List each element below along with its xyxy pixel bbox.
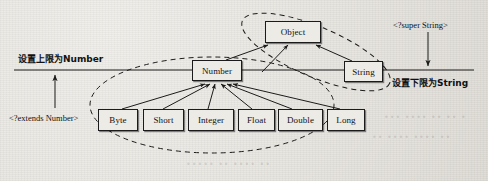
class-node-label: Float <box>247 115 266 125</box>
paper-bleed-text: •• •••• •••• •• <box>372 133 451 142</box>
edge-integer-number <box>208 84 215 109</box>
class-node-label: Integer <box>198 115 224 125</box>
edge-byte-number <box>122 84 205 109</box>
edge-string-object <box>316 45 352 61</box>
class-node-byte[interactable]: Byte <box>98 109 138 131</box>
class-node-label: Number <box>202 66 232 76</box>
diagram-canvas: Object Number String Byte Short Integer … <box>0 0 488 181</box>
extends-wildcard-label: <?extends Number> <box>9 113 78 123</box>
edge-wildcard-object <box>262 45 288 72</box>
class-node-label: Byte <box>109 115 126 125</box>
class-node-float[interactable]: Float <box>238 109 275 131</box>
class-node-label: String <box>352 67 375 77</box>
class-node-long[interactable]: Long <box>327 109 365 131</box>
class-node-object[interactable]: Object <box>265 21 321 43</box>
class-node-label: Long <box>336 115 355 125</box>
class-node-label: Short <box>153 115 173 125</box>
lower-bound-note: 设置下限为String <box>392 76 468 89</box>
paper-bleed-text: ••• •••• •• •• • <box>384 113 467 122</box>
edge-short-number <box>163 84 210 109</box>
class-node-double[interactable]: Double <box>278 109 323 131</box>
class-node-integer[interactable]: Integer <box>188 109 234 131</box>
class-node-label: Double <box>287 115 314 125</box>
edge-number-object <box>226 45 268 60</box>
super-wildcard-label: <?super String> <box>393 20 448 30</box>
super-bound-ellipse <box>233 0 400 106</box>
paper-bleed-text: ••••• •• •••• •• <box>186 160 271 169</box>
class-node-number[interactable]: Number <box>192 60 242 81</box>
upper-bound-note: 设置上限为Number <box>18 52 103 65</box>
edge-long-number <box>233 84 340 109</box>
class-node-label: Object <box>281 27 306 37</box>
class-node-string[interactable]: String <box>344 61 383 82</box>
class-node-short[interactable]: Short <box>143 109 184 131</box>
